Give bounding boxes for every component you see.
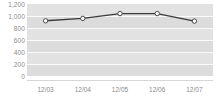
- y-axis-tick-label: 400: [0, 49, 25, 56]
- x-axis-tick-label: 12/05: [112, 86, 128, 94]
- y-axis-tick-label: 1,200: [0, 1, 25, 8]
- y-axis: 1,200 1,000 800 600 400 200 0: [0, 0, 25, 80]
- data-point-marker: [118, 11, 122, 15]
- x-axis-tick-label: 12/07: [186, 86, 202, 94]
- data-point-marker: [155, 11, 159, 15]
- data-point-marker: [192, 19, 196, 23]
- x-axis-tick-label: 12/03: [37, 86, 53, 94]
- y-axis-tick-label: 800: [0, 25, 25, 32]
- x-axis-tick-label: 12/04: [75, 86, 91, 94]
- data-point-marker: [43, 19, 47, 23]
- line-chart: 1,200 1,000 800 600 400 200 0 12/03 12/0…: [0, 0, 219, 101]
- x-axis-tick-label: 12/06: [149, 86, 165, 94]
- y-axis-tick-label: 0: [0, 73, 25, 80]
- x-axis: 12/03 12/04 12/05 12/06 12/07: [27, 86, 213, 98]
- y-axis-tick-label: 600: [0, 37, 25, 44]
- x-axis-line: [27, 80, 213, 81]
- y-axis-tick-label: 1,000: [0, 13, 25, 20]
- plot-area: [27, 4, 213, 76]
- data-point-marker: [81, 16, 85, 20]
- data-series: [27, 4, 213, 76]
- y-axis-tick-label: 200: [0, 61, 25, 68]
